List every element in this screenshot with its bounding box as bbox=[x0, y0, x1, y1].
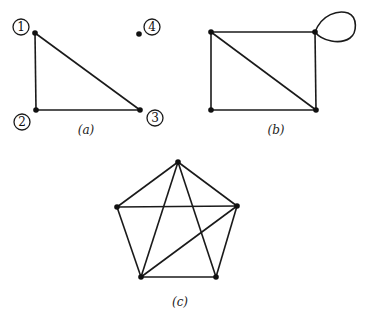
vertex-4 bbox=[136, 31, 142, 37]
vertex-right bbox=[234, 203, 240, 209]
vertex-tl bbox=[208, 29, 214, 35]
vertex-label-3: 3 bbox=[147, 110, 163, 126]
vertex-left bbox=[114, 204, 120, 210]
vertex-bottom-right bbox=[213, 274, 219, 280]
vertex-2 bbox=[33, 107, 39, 113]
edge-top-bottom-right bbox=[178, 162, 216, 277]
svg-text:4: 4 bbox=[148, 20, 156, 34]
edge-left-right bbox=[117, 206, 237, 207]
edge-top-left bbox=[117, 162, 178, 207]
edge-top-right bbox=[178, 162, 237, 206]
vertex-bottom-left bbox=[138, 274, 144, 280]
edge-tr-br bbox=[315, 32, 316, 110]
edge-right-bottom-left bbox=[141, 206, 237, 277]
edge-left-bottom-left bbox=[117, 207, 141, 277]
graph-b: (b) bbox=[208, 12, 355, 137]
caption-c: (c) bbox=[172, 295, 188, 309]
vertex-label-4: 4 bbox=[144, 19, 160, 35]
vertex-top bbox=[175, 159, 181, 165]
edge-tl-br bbox=[211, 32, 316, 110]
vertex-3 bbox=[137, 107, 143, 113]
svg-text:3: 3 bbox=[151, 111, 159, 125]
graph-c: (c) bbox=[114, 159, 240, 309]
svg-text:2: 2 bbox=[18, 115, 26, 129]
vertex-tr bbox=[312, 29, 318, 35]
edge-right-bottom-right bbox=[216, 206, 237, 277]
graph-a: 1 4 2 3 (a) bbox=[13, 19, 163, 137]
edge-1-3 bbox=[35, 33, 140, 110]
caption-a: (a) bbox=[78, 123, 95, 137]
edge-1-2 bbox=[35, 33, 36, 110]
vertex-bl bbox=[208, 107, 214, 113]
vertex-label-2: 2 bbox=[14, 114, 30, 130]
vertex-1 bbox=[32, 30, 38, 36]
svg-text:1: 1 bbox=[17, 20, 25, 34]
vertex-label-1: 1 bbox=[13, 19, 29, 35]
vertex-br bbox=[313, 107, 319, 113]
edge-top-bottom-left bbox=[141, 162, 178, 277]
graph-figure: 1 4 2 3 (a) (b) bbox=[0, 0, 367, 315]
caption-b: (b) bbox=[267, 123, 284, 137]
loop-tr bbox=[315, 12, 355, 41]
